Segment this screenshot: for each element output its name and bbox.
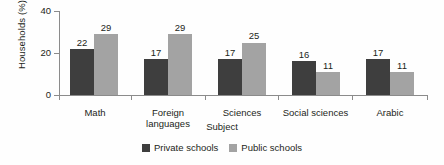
category-label-foreign-languages-line1: Foreign	[137, 108, 199, 119]
bar-private-foreign-languages	[144, 59, 168, 95]
x-tick-sep-4	[352, 95, 353, 100]
bar-value-private-foreign-languages: 17	[144, 47, 168, 58]
x-axis-line	[59, 95, 428, 96]
bar-public-foreign-languages	[168, 34, 192, 95]
category-label-sciences-line1: Sciences	[211, 108, 273, 119]
bar-public-social-sciences	[316, 72, 340, 95]
legend-item-private-schools[interactable]: Private schools	[142, 142, 218, 153]
category-label-sciences: Sciences	[211, 108, 273, 119]
y-tick-label-20: 20	[40, 47, 51, 58]
x-tick-end	[427, 95, 428, 100]
bar-public-math	[94, 34, 118, 95]
legend-label-private-schools: Private schools	[154, 142, 218, 153]
category-label-math-line1: Math	[64, 108, 126, 119]
y-tick-label-0: 0	[46, 89, 51, 100]
legend-swatch-private-schools	[142, 144, 150, 152]
category-label-foreign-languages-line2: languages	[137, 119, 199, 130]
bar-private-sciences	[218, 59, 242, 95]
category-label-math: Math	[64, 108, 126, 119]
y-tick-20: 20	[54, 53, 59, 54]
bar-value-public-math: 29	[94, 22, 118, 33]
x-tick-sep-2	[205, 95, 206, 100]
bar-public-arabic	[390, 72, 414, 95]
x-tick-sep-1	[131, 95, 132, 100]
category-label-arabic-line1: Arabic	[359, 108, 421, 119]
legend-label-public-schools: Public schools	[241, 142, 302, 153]
legend: Private schools Public schools	[0, 142, 444, 153]
plot-area: 40 20 0 22 29 17 29 17 25 16 11	[59, 11, 428, 95]
bar-value-public-social-sciences: 11	[316, 60, 340, 71]
category-label-foreign-languages: Foreign languages	[137, 108, 199, 129]
bar-chart: Households (%) Subject 40 20 0 22 29 17	[0, 0, 444, 165]
category-label-social-sciences: Social sciences	[278, 108, 353, 119]
bar-value-public-arabic: 11	[390, 60, 414, 71]
x-tick-start	[59, 95, 60, 100]
bar-value-private-math: 22	[70, 37, 94, 48]
y-axis-line	[59, 11, 60, 96]
category-label-social-sciences-line1: Social sciences	[278, 108, 353, 119]
bar-private-math	[70, 49, 94, 95]
bar-private-social-sciences	[292, 61, 316, 95]
bar-public-sciences	[242, 43, 266, 96]
bar-value-private-arabic: 17	[366, 47, 390, 58]
legend-item-public-schools[interactable]: Public schools	[229, 142, 302, 153]
bar-value-private-social-sciences: 16	[292, 49, 316, 60]
y-tick-40: 40	[54, 11, 59, 12]
bar-value-private-sciences: 17	[218, 47, 242, 58]
x-tick-sep-3	[278, 95, 279, 100]
x-axis-title: Subject	[0, 121, 444, 132]
y-tick-label-40: 40	[40, 5, 51, 16]
bar-value-public-sciences: 25	[242, 30, 266, 41]
y-axis-title: Households (%)	[16, 0, 27, 83]
category-label-arabic: Arabic	[359, 108, 421, 119]
bar-value-public-foreign-languages: 29	[168, 22, 192, 33]
bar-private-arabic	[366, 59, 390, 95]
legend-swatch-public-schools	[229, 144, 237, 152]
